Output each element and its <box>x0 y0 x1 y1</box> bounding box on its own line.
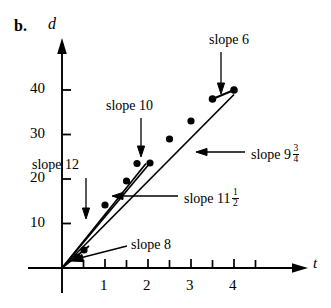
slope-6-arrowhead <box>217 83 224 94</box>
y-tick-label-30: 30 <box>30 126 45 141</box>
y-tick-label-40: 40 <box>30 81 45 96</box>
x-tick-marks <box>84 259 256 268</box>
data-point <box>187 117 194 124</box>
y-tick-label-10: 10 <box>30 215 45 230</box>
slope-9-34-label: slope 934 <box>251 144 299 165</box>
data-point <box>80 246 87 253</box>
panel-letter: b. <box>14 18 27 34</box>
x-axis-label: t <box>313 256 317 271</box>
figure-panel-b: b. d t 10 20 30 40 1 2 3 4 slope 6 slope… <box>0 0 331 308</box>
x-axis-arrowhead <box>292 263 308 273</box>
data-point <box>146 159 153 166</box>
slope-6-label: slope 6 <box>209 33 249 47</box>
x-tick-label-4: 4 <box>229 278 237 293</box>
x-tick-label-3: 3 <box>186 278 194 293</box>
slope-12-arrowhead <box>82 208 89 219</box>
slope-8-label: slope 8 <box>131 238 171 252</box>
slope-10-arrowhead <box>137 146 144 157</box>
y-tick-label-20: 20 <box>30 170 45 185</box>
data-point <box>133 160 140 167</box>
slope-10-label: slope 10 <box>106 99 153 113</box>
slope-9-34-fraction: 34 <box>293 144 300 165</box>
fraction-denominator: 4 <box>293 155 300 165</box>
data-point <box>166 135 173 142</box>
data-point <box>230 86 238 94</box>
annotation-leaders-group <box>70 52 245 262</box>
y-axis-label: d <box>48 16 56 32</box>
data-point <box>123 177 130 184</box>
x-tick-label-2: 2 <box>143 278 151 293</box>
data-point <box>101 201 108 208</box>
slope-12-label: slope 12 <box>32 158 79 172</box>
slope-11-12-label: slope 1112 <box>184 188 239 209</box>
x-tick-label-1: 1 <box>100 278 108 293</box>
slope-9-34-whole: slope 9 <box>251 147 291 162</box>
slope-9-34-arrowhead <box>196 148 207 155</box>
slope-11-12-whole: slope 11 <box>184 191 231 206</box>
data-point <box>209 95 217 103</box>
slope-11-12-fraction: 12 <box>232 188 239 209</box>
fraction-denominator: 2 <box>232 199 239 209</box>
y-axis-arrowhead <box>57 38 67 54</box>
